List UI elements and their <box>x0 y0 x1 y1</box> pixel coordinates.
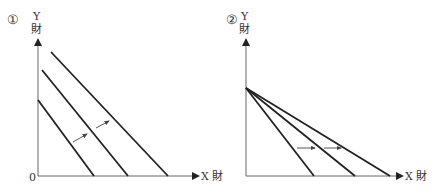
budget-line-3 <box>246 88 390 176</box>
panel-2-y-label: Y <box>240 10 249 23</box>
panel-1-y-label: Y <box>32 10 41 23</box>
panel-2-chart <box>246 40 402 176</box>
panel-1-y-label-kanji: 財 <box>31 22 42 36</box>
shift-arrow-1 <box>73 134 87 142</box>
panel-2-y-label-kanji: 財 <box>239 22 250 36</box>
panel-1-origin: 0 <box>29 171 36 184</box>
panel-2-number: ② <box>226 12 238 27</box>
panel-2-x-label: X 財 <box>405 169 427 183</box>
budget-line-1 <box>246 88 314 176</box>
panel-1-chart <box>38 40 198 176</box>
budget-line-2 <box>246 88 355 176</box>
budget-line-3 <box>51 52 168 176</box>
budget-line-1 <box>38 100 94 176</box>
panel-1-number: ① <box>7 12 19 27</box>
shift-arrow-2 <box>96 121 109 128</box>
panel-1-x-label: X 財 <box>201 169 223 183</box>
